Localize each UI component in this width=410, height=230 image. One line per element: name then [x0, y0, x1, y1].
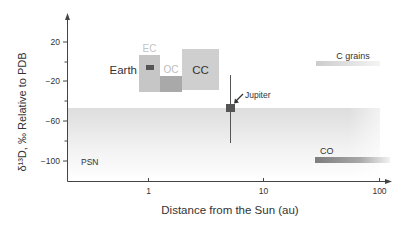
jupiter-arrow-icon [234, 94, 243, 104]
y-tick-label: −20 [46, 76, 61, 86]
x-axis-title: Distance from the Sun (au) [161, 204, 299, 216]
jupiter-label: Jupiter [245, 90, 271, 100]
x-tick-label: 100 [372, 186, 386, 196]
y-tick-label: −100 [41, 156, 60, 166]
psn-region [68, 108, 380, 181]
y-tick-label: −60 [46, 116, 61, 126]
oc-region [160, 76, 182, 92]
earth-label: Earth [110, 64, 138, 76]
oc-label: OC [164, 64, 179, 75]
x-tick-label: 10 [259, 186, 269, 196]
c-grains-label: C grains [336, 51, 370, 61]
y-tick-labels: 20 −20 −60 −100 [41, 37, 60, 166]
jupiter-marker [226, 104, 235, 112]
x-tick-label: 1 [146, 186, 151, 196]
earth-marker [146, 65, 154, 70]
ec-label: EC [143, 43, 157, 54]
y-tick-label: 20 [51, 37, 61, 47]
ec-region [139, 55, 160, 92]
co-label: CO [320, 146, 334, 156]
c-grains-bar [316, 61, 380, 66]
x-tick-labels: 1 10 100 [146, 186, 387, 196]
y-axis-title: δ¹³D, ‰ Relative to PDB [16, 52, 28, 171]
co-bar [315, 157, 390, 163]
psn-label: PSN [81, 157, 98, 167]
cc-label: CC [192, 64, 209, 76]
chart: 20 −20 −60 −100 1 10 100 Distance from t… [0, 0, 410, 230]
